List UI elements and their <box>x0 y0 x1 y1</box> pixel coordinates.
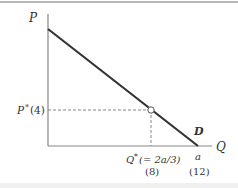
quantity-label-expr: (= 2a/3) <box>139 154 181 165</box>
demand-curve <box>48 29 198 146</box>
quantity-label-sup: * <box>134 152 138 161</box>
equilibrium-point <box>148 107 154 113</box>
intercept-label: a <box>195 151 201 162</box>
intercept-value: (12) <box>189 166 210 177</box>
price-label-main: P <box>16 104 25 116</box>
price-label-value: (4) <box>30 104 45 116</box>
price-label-sup: * <box>25 103 29 112</box>
demand-diagram: P Q D P * (4) Q * (= 2a/3) (8) a (12) <box>0 0 238 188</box>
x-axis-label: Q <box>216 140 226 154</box>
curve-label: D <box>193 125 204 138</box>
y-axis-label: P <box>28 11 38 25</box>
quantity-label-main: Q <box>126 154 134 165</box>
bottom-band <box>0 183 238 188</box>
quantity-label-value: (8) <box>145 166 159 177</box>
